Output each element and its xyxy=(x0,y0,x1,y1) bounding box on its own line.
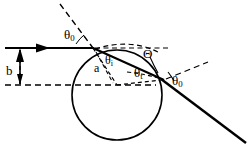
label-sphere-radius: a xyxy=(94,62,99,74)
ray-optics-diagram: θ0 θi a b Θ θt θ0 xyxy=(0,0,249,151)
label-deflection-angle: Θ xyxy=(143,47,152,60)
impact-parameter-arrowhead-up xyxy=(16,48,24,62)
impact-parameter-arrowhead-down xyxy=(17,74,23,85)
label-incidence-angle: θ0 xyxy=(64,28,75,41)
label-impact-parameter: b xyxy=(6,64,13,77)
label-emergence-angle: θ0 xyxy=(172,74,183,87)
emergent-ray xyxy=(161,79,246,143)
diagram-canvas xyxy=(0,0,249,151)
sphere-outline xyxy=(72,50,162,140)
exit-normal-inner-dashed xyxy=(117,80,161,85)
label-internal-exit-angle: θt xyxy=(134,66,143,79)
entry-theta0-angle-arc xyxy=(76,35,84,44)
label-refraction-angle: θi xyxy=(105,54,113,66)
incident-ray-arrowhead xyxy=(36,44,50,53)
